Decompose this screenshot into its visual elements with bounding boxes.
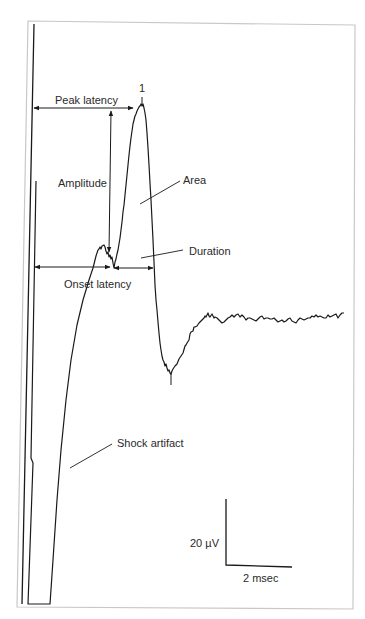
area-leader-line bbox=[140, 181, 180, 204]
waveform-canvas bbox=[0, 0, 365, 619]
onset-latency-label: Onset latency bbox=[64, 279, 131, 290]
amplitude-label: Amplitude bbox=[58, 178, 107, 189]
scale-bar bbox=[226, 499, 292, 567]
amplitude-arrow bbox=[109, 111, 111, 252]
area-label: Area bbox=[183, 175, 206, 186]
scale-bar-time-label: 2 msec bbox=[243, 573, 278, 584]
waveform-figure: 1 Peak latency Amplitude Area Duration O… bbox=[0, 0, 365, 619]
duration-leader-line bbox=[141, 250, 183, 258]
stimulus-line bbox=[22, 24, 34, 604]
shock-artifact-leader-line bbox=[70, 444, 112, 468]
peak-latency-label: Peak latency bbox=[55, 95, 118, 106]
scale-bar-voltage-label: 20 µV bbox=[190, 538, 219, 549]
shock-artifact-trace bbox=[28, 181, 98, 604]
duration-label: Duration bbox=[189, 246, 231, 257]
shock-artifact-label: Shock artifact bbox=[117, 438, 184, 449]
peak-marker-label: 1 bbox=[139, 83, 145, 94]
figure-frame bbox=[17, 21, 355, 609]
evoked-response-trace bbox=[98, 104, 344, 374]
